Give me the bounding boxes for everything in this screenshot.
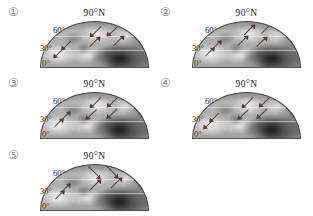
figure: ① 90°N 60° 30° 0° ② 90°N 60° 30° 0° ③ 90…	[0, 0, 313, 216]
wind-direction-arrow	[244, 97, 254, 107]
wind-direction-arrow	[237, 37, 246, 46]
latitude-label-0: 0°	[194, 59, 202, 67]
wind-direction-arrow	[109, 24, 120, 35]
option-number-label: ①	[8, 6, 19, 18]
latitude-label-60: 60°	[53, 26, 65, 34]
hemisphere-map: 90°N 60° 30° 0°	[192, 21, 301, 68]
option-number-label: ④	[160, 77, 171, 89]
option-number-label: ③	[8, 77, 19, 89]
latitude-label-60: 60°	[205, 97, 217, 105]
option-panel: ⑤ 90°N 60° 30° 0°	[8, 148, 153, 214]
option-number-label: ⑤	[8, 149, 19, 161]
pole-label: 90°N	[192, 79, 301, 89]
latitude-label-30: 30°	[192, 115, 204, 123]
latitude-label-0: 0°	[42, 59, 50, 67]
pole-label: 90°N	[40, 8, 149, 18]
option-panel: ④ 90°N 60° 30° 0°	[160, 76, 305, 142]
latitude-label-0: 0°	[42, 202, 50, 210]
latitude-label-30: 30°	[40, 44, 52, 52]
pole-label: 90°N	[40, 151, 149, 161]
option-panel: ③ 90°N 60° 30° 0°	[8, 76, 153, 142]
wind-direction-arrow	[261, 23, 273, 35]
wind-direction-arrow	[63, 40, 71, 48]
hemisphere-map: 90°N 60° 30° 0°	[40, 92, 149, 139]
option-panel: ① 90°N 60° 30° 0°	[8, 5, 153, 71]
latitude-label-60: 60°	[205, 26, 217, 34]
wind-direction-arrow	[113, 37, 122, 46]
wind-direction-arrow	[92, 97, 102, 107]
option-panel: ② 90°N 60° 30° 0°	[160, 5, 305, 71]
latitude-label-30: 30°	[40, 115, 52, 123]
hemisphere-map: 90°N 60° 30° 0°	[192, 92, 301, 139]
wind-direction-arrow	[256, 38, 265, 47]
wind-direction-arrow	[109, 95, 120, 106]
hemisphere-map: 90°N 60° 30° 0°	[40, 21, 149, 68]
latitude-label-30: 30°	[192, 44, 204, 52]
wind-direction-arrow	[261, 95, 272, 106]
pole-label: 90°N	[192, 8, 301, 18]
wind-direction-arrow	[105, 165, 117, 177]
pole-label: 90°N	[40, 79, 149, 89]
wind-direction-arrow	[89, 180, 99, 190]
option-number-label: ②	[160, 6, 171, 18]
wind-direction-arrow	[109, 108, 118, 117]
latitude-label-0: 0°	[42, 130, 50, 138]
latitude-label-30: 30°	[40, 187, 52, 195]
latitude-label-60: 60°	[53, 169, 65, 177]
wind-direction-arrow	[88, 166, 100, 178]
latitude-label-60: 60°	[53, 97, 65, 105]
latitude-60-gridline	[43, 179, 146, 180]
latitude-label-0: 0°	[194, 130, 202, 138]
hemisphere-map: 90°N 60° 30° 0°	[40, 164, 149, 211]
